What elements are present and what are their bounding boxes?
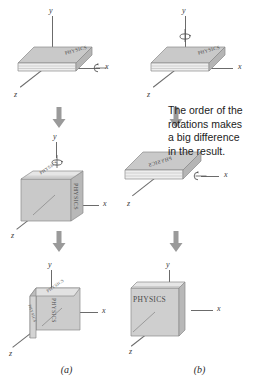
caption-b: (b): [133, 364, 266, 375]
panel-b: y x z PHYSICS: [133, 0, 266, 386]
y-axis-label: y: [49, 7, 53, 15]
y-axis-label: y: [166, 261, 170, 269]
z-axis-label: z: [129, 348, 132, 356]
rotation-arrow-about-x-icon: [195, 170, 206, 181]
down-arrow-a-1: [52, 107, 66, 129]
x-axis-label: x: [217, 305, 221, 313]
callout-line-3: a big difference: [168, 131, 264, 145]
x-axis-label: x: [224, 171, 228, 179]
y-axis-label: y: [53, 133, 57, 141]
rotation-arrow-about-y-icon: [178, 29, 189, 40]
panel-a: y x z PHYSICS: [0, 0, 133, 386]
x-axis-label: x: [103, 200, 107, 208]
panel-a-step-1: y x z PHYSICS: [0, 0, 133, 128]
z-axis-label: z: [9, 350, 12, 358]
callout-line-2: rotations makes: [168, 118, 264, 132]
rotation-arrow-about-x-icon: [95, 62, 106, 73]
down-arrow-b-2: [169, 231, 183, 253]
callout-text: The order of the rotations makes a big d…: [168, 104, 264, 158]
z-axis-label: z: [147, 91, 150, 99]
z-axis-label: z: [14, 91, 17, 99]
caption-a: (a): [0, 364, 133, 375]
z-axis-label: z: [127, 200, 130, 208]
book-edge-on: PHYSICS PHYSICS PHYSICS: [22, 278, 90, 346]
x-axis-label: x: [102, 307, 106, 315]
callout-line-1: The order of the: [168, 104, 264, 118]
down-arrow-a-2: [52, 231, 66, 253]
panel-b-step-3: y x z PHYSICS: [133, 252, 266, 380]
book-flat: PHYSICS: [151, 45, 229, 81]
rotation-arrow-about-y-icon: [50, 155, 61, 166]
panel-a-step-2: y x z PHYSICS PHYSICS: [0, 128, 133, 256]
x-axis-line: [191, 310, 213, 311]
callout-line-4: in the result.: [168, 145, 264, 159]
panel-a-step-3: y x z PHYSICS PHYSICS: [0, 252, 133, 380]
y-axis-label: y: [182, 7, 186, 15]
book-upright-rotated: PHYSICS PHYSICS: [21, 171, 95, 227]
x-axis-label: x: [238, 63, 242, 71]
book-title-vertical: PHYSICS: [51, 298, 57, 323]
book-title-front: PHYSICS: [133, 295, 166, 304]
book-flat: PHYSICS: [18, 45, 96, 81]
book-title-vertical: PHYSICS: [73, 183, 79, 210]
book-upright-front: PHYSICS: [129, 278, 193, 344]
z-axis-label: z: [11, 232, 14, 240]
y-axis-label: y: [48, 261, 52, 269]
rotation-order-figure: y x z PHYSICS: [0, 0, 266, 386]
